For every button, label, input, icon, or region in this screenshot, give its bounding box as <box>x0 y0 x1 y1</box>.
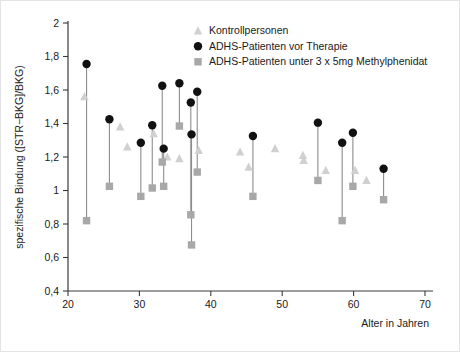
y-tick-label: 0,8 <box>44 218 59 230</box>
data-point-circle <box>249 132 257 140</box>
data-point-triangle <box>322 166 330 174</box>
data-point-triangle <box>362 176 370 184</box>
data-point-square <box>249 193 256 200</box>
figure-container: 0,40,60,811,21,41,61,82203040506070spezi… <box>0 0 460 352</box>
data-point-circle <box>187 98 195 106</box>
data-point-triangle <box>149 129 157 137</box>
data-point-square <box>187 211 194 218</box>
data-point-circle <box>314 118 322 126</box>
data-point-square <box>314 177 321 184</box>
series-triangle <box>80 92 370 184</box>
x-tick-label: 20 <box>62 298 74 310</box>
data-point-circle <box>159 144 167 152</box>
data-point-circle <box>105 115 113 123</box>
data-point-circle <box>349 129 357 137</box>
y-axis-title: spezifische Bindung ([STR−BKG]/BKG) <box>13 65 25 249</box>
legend-label-0: Kontrollpersonen <box>209 24 289 36</box>
data-point-square <box>380 196 387 203</box>
y-tick-label: 1,6 <box>44 84 59 96</box>
legend-label-1: ADHS-Patienten vor Therapie <box>209 40 348 52</box>
chart-plot-area: 0,40,60,811,21,41,61,82203040506070spezi… <box>1 1 460 352</box>
chart-legend: KontrollpersonenADHS-Patienten vor Thera… <box>194 24 428 67</box>
x-tick-label: 40 <box>205 298 217 310</box>
scatter-chart: 0,40,60,811,21,41,61,82203040506070spezi… <box>1 1 460 352</box>
data-point-square <box>349 183 356 190</box>
data-point-triangle <box>175 154 183 162</box>
legend-marker-circle <box>194 42 202 50</box>
data-point-circle <box>187 130 195 138</box>
data-point-square <box>160 183 167 190</box>
y-tick-label: 2 <box>53 17 59 29</box>
data-point-square <box>338 217 345 224</box>
x-tick-label: 60 <box>348 298 360 310</box>
data-point-square <box>194 168 201 175</box>
data-point-triangle <box>194 146 202 154</box>
data-point-triangle <box>271 144 279 152</box>
data-point-circle <box>338 139 346 147</box>
legend-label-2: ADHS-Patienten unter 3 x 5mg Methylpheni… <box>209 55 427 67</box>
data-point-circle <box>137 139 145 147</box>
data-point-square <box>137 193 144 200</box>
data-point-square <box>159 158 166 165</box>
data-point-square <box>149 184 156 191</box>
y-tick-label: 1,8 <box>44 50 59 62</box>
data-point-circle <box>193 87 201 95</box>
data-point-triangle <box>123 142 131 150</box>
legend-marker-square <box>194 58 201 65</box>
y-tick-label: 1,4 <box>44 117 59 129</box>
y-tick-label: 1,2 <box>44 151 59 163</box>
data-point-triangle <box>116 122 124 130</box>
y-tick-label: 1 <box>53 184 59 196</box>
data-point-square <box>83 217 90 224</box>
legend-marker-triangle-glyph <box>194 26 202 34</box>
data-point-circle <box>82 60 90 68</box>
y-tick-label: 0,4 <box>44 285 59 297</box>
data-point-triangle <box>236 147 244 155</box>
data-point-triangle <box>80 92 88 100</box>
x-tick-label: 30 <box>134 298 146 310</box>
x-tick-label: 70 <box>419 298 431 310</box>
legend-marker-triangle <box>194 26 202 34</box>
legend-marker-circle-glyph <box>194 42 202 50</box>
x-tick-label: 50 <box>276 298 288 310</box>
data-point-square <box>188 241 195 248</box>
data-point-triangle <box>244 162 252 170</box>
data-point-circle <box>158 82 166 90</box>
data-point-circle <box>148 121 156 129</box>
data-point-circle <box>175 79 183 87</box>
data-point-circle <box>379 165 387 173</box>
y-tick-label: 0,6 <box>44 251 59 263</box>
x-axis-title: Alter in Jahren <box>361 317 429 329</box>
data-point-square <box>176 122 183 129</box>
data-point-square <box>106 183 113 190</box>
legend-marker-square-glyph <box>194 58 201 65</box>
data-point-triangle <box>351 166 359 174</box>
